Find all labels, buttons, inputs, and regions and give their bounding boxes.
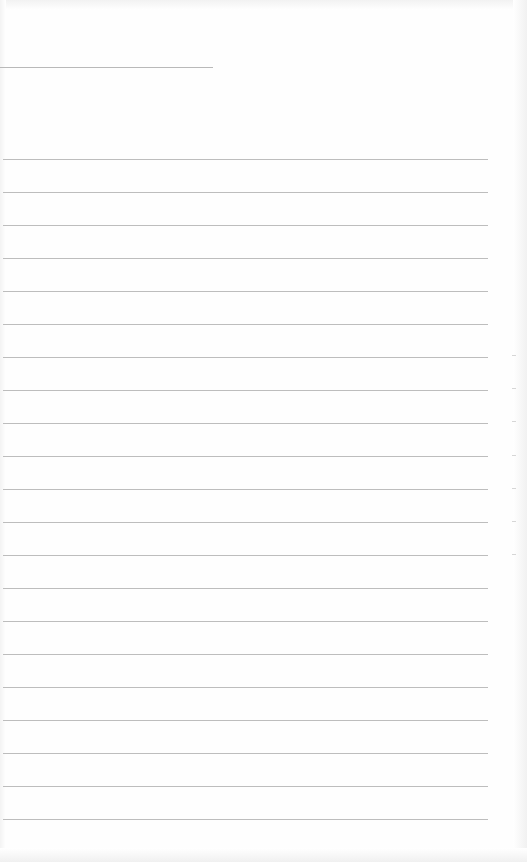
ruled-line [3, 258, 488, 259]
ruled-line [3, 357, 488, 358]
ruled-line [3, 621, 488, 622]
page-edge-bottom [0, 848, 527, 862]
ruled-line [3, 753, 488, 754]
ruled-line [3, 786, 488, 787]
ruled-line [3, 159, 488, 160]
ruled-line [3, 555, 488, 556]
ruled-line [3, 654, 488, 655]
page-edge-left [0, 0, 6, 862]
page-edge-top [0, 0, 527, 10]
title-line [0, 67, 213, 68]
ruled-line [3, 423, 488, 424]
margin-tick [512, 488, 516, 489]
ruled-line [3, 522, 488, 523]
lined-page [0, 0, 527, 862]
ruled-line [3, 456, 488, 457]
ruled-line [3, 225, 488, 226]
margin-tick [512, 455, 516, 456]
ruled-line [3, 324, 488, 325]
ruled-line [3, 291, 488, 292]
margin-tick [512, 421, 516, 422]
ruled-line [3, 489, 488, 490]
ruled-line [3, 588, 488, 589]
ruled-line [3, 819, 488, 820]
margin-tick [512, 388, 516, 389]
ruled-line [3, 720, 488, 721]
margin-tick [512, 521, 516, 522]
page-edge-right [513, 0, 527, 862]
ruled-line [3, 390, 488, 391]
ruled-line [3, 192, 488, 193]
ruled-line [3, 687, 488, 688]
margin-tick [512, 554, 516, 555]
margin-tick [512, 355, 516, 356]
